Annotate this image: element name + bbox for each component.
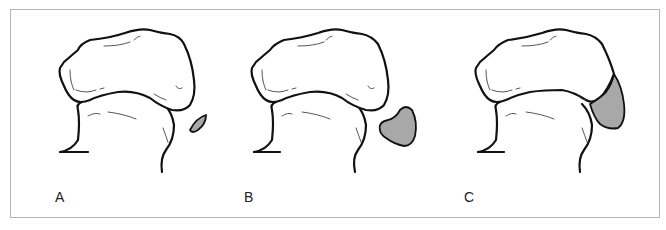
bone-lower-a (60, 102, 174, 172)
bone-upper-b (252, 29, 389, 110)
bone-upper-a (60, 29, 195, 110)
lesion-b (380, 107, 416, 146)
lesion-a (190, 115, 206, 132)
panel-b-drawing (220, 0, 450, 230)
panel-label-c: C (464, 189, 474, 205)
panel-a-drawing (0, 0, 230, 230)
bone-lower-b (254, 102, 366, 172)
panel-label-b: B (244, 189, 253, 205)
bone-lower-c (478, 102, 592, 172)
bone-upper-c (476, 29, 615, 102)
panel-label-a: A (55, 189, 64, 205)
